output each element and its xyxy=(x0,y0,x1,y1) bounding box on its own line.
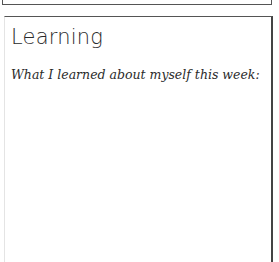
reflection-prompt: What I learned about myself this week: xyxy=(11,67,260,83)
response-writing-area[interactable] xyxy=(9,89,267,258)
learning-card: Learning What I learned about myself thi… xyxy=(4,16,273,262)
section-title: Learning xyxy=(11,25,103,49)
previous-section-box xyxy=(2,0,272,5)
